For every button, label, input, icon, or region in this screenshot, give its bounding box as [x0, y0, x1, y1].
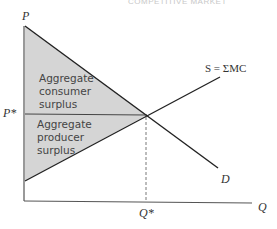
- equilibrium-quantity-label: Q*: [139, 206, 154, 220]
- x-axis-label: Q: [258, 200, 267, 214]
- consumer-surplus-label-line-1: Aggregate: [39, 72, 94, 84]
- demand-curve-label: D: [220, 172, 230, 186]
- producer-surplus-label-line-1: Aggregate: [37, 118, 92, 130]
- y-axis-label: P: [21, 9, 30, 23]
- producer-surplus-label-line-2: producer: [37, 131, 85, 143]
- equilibrium-price-label: P*: [2, 106, 16, 120]
- consumer-surplus-label-line-3: surplus: [39, 98, 77, 110]
- supply-curve-label: S = ΣMC: [205, 62, 246, 74]
- x-axis: [24, 201, 252, 203]
- producer-surplus-label-line-3: surplus: [37, 144, 75, 156]
- surplus-diagram: P Q P* Q* S = ΣMC D Aggregate consumer s…: [0, 0, 277, 229]
- consumer-surplus-label-line-2: consumer: [39, 85, 92, 97]
